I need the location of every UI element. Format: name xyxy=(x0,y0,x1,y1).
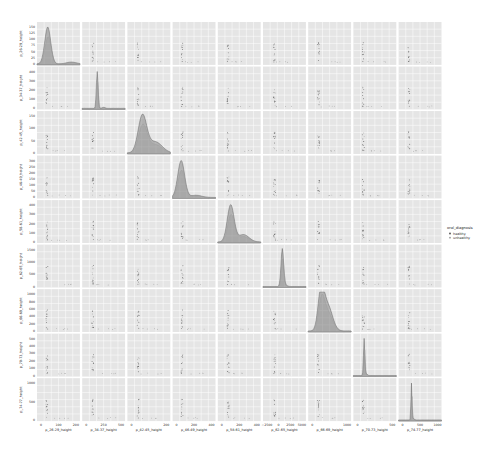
scatter-point xyxy=(369,240,370,241)
scatter-point xyxy=(380,151,381,152)
scatter-point xyxy=(137,55,138,56)
scatter-point xyxy=(227,103,228,104)
scatter-point xyxy=(151,195,152,196)
scatter-point xyxy=(93,268,94,269)
scatter-point xyxy=(319,142,320,143)
scatter-point xyxy=(229,408,230,409)
y-tick-label: 300 xyxy=(29,79,35,83)
scatter-point xyxy=(112,329,113,330)
scatter-point xyxy=(285,61,286,62)
y-tick-label: 400 xyxy=(29,70,35,74)
panel-7-2 xyxy=(127,334,170,377)
scatter-point xyxy=(275,234,276,235)
scatter-point xyxy=(363,98,364,99)
x-axis-label: p_34-37_height xyxy=(91,428,118,432)
y-tick-label: 1000 xyxy=(27,381,35,385)
scatter-point xyxy=(161,240,162,241)
scatter-point xyxy=(240,106,241,107)
scatter-point xyxy=(138,269,139,270)
scatter-point xyxy=(47,145,48,146)
scatter-point xyxy=(137,284,138,285)
scatter-point xyxy=(340,62,341,63)
scatter-point xyxy=(102,151,103,152)
scatter-point xyxy=(274,361,275,362)
scatter-point xyxy=(274,47,275,48)
scatter-point xyxy=(385,62,386,63)
scatter-point xyxy=(362,92,363,93)
scatter-point xyxy=(318,404,319,405)
scatter-point xyxy=(249,418,250,419)
scatter-point xyxy=(318,406,319,407)
scatter-point xyxy=(92,179,93,180)
y-tick-label: 100 xyxy=(29,231,35,235)
scatter-point xyxy=(296,195,297,196)
scatter-point xyxy=(93,54,94,55)
scatter-point xyxy=(334,106,335,107)
y-tick-label: 100 xyxy=(29,183,35,187)
scatter-point xyxy=(422,195,423,196)
scatter-point xyxy=(409,275,410,276)
panel-1-6 xyxy=(308,67,351,110)
scatter-point xyxy=(183,132,184,133)
scatter-point xyxy=(138,411,139,412)
scatter-point xyxy=(138,99,139,100)
scatter-point xyxy=(55,150,56,151)
x-tick-label: 0 xyxy=(221,423,223,427)
scatter-point xyxy=(227,371,228,372)
scatter-point xyxy=(93,327,94,328)
scatter-point xyxy=(181,234,182,235)
x-axis-label: p_42-45_height xyxy=(136,428,163,432)
scatter-point xyxy=(97,284,98,285)
scatter-point xyxy=(319,193,320,194)
scatter-point xyxy=(318,372,319,373)
scatter-point xyxy=(92,139,93,140)
scatter-point xyxy=(328,373,329,374)
scatter-point xyxy=(228,59,229,60)
panel-4-7 xyxy=(353,200,396,243)
y-tick-label: 75 xyxy=(31,43,35,47)
scatter-point xyxy=(137,234,138,235)
scatter-point xyxy=(100,195,101,196)
scatter-point xyxy=(285,418,286,419)
panel-5-2 xyxy=(127,245,170,288)
scatter-point xyxy=(46,273,47,274)
scatter-point xyxy=(182,221,183,222)
scatter-point xyxy=(92,234,93,235)
scatter-point xyxy=(148,239,149,240)
scatter-point xyxy=(408,133,409,134)
scatter-point xyxy=(318,147,319,148)
scatter-point xyxy=(317,97,318,98)
scatter-point xyxy=(274,92,275,93)
scatter-point xyxy=(228,92,229,93)
scatter-point xyxy=(46,182,47,183)
scatter-point xyxy=(362,320,363,321)
y-tick-label: 300 xyxy=(29,159,35,163)
scatter-point xyxy=(318,48,319,49)
scatter-point xyxy=(362,185,363,186)
scatter-point xyxy=(279,61,280,62)
scatter-point xyxy=(377,195,378,196)
scatter-point xyxy=(317,274,318,275)
scatter-point xyxy=(318,365,319,366)
scatter-point xyxy=(47,195,48,196)
scatter-point xyxy=(182,317,183,318)
scatter-point xyxy=(408,270,409,271)
scatter-point xyxy=(137,228,138,229)
scatter-point xyxy=(318,361,319,362)
scatter-point xyxy=(47,329,48,330)
scatter-point xyxy=(46,322,47,323)
scatter-point xyxy=(363,283,364,284)
scatter-point xyxy=(286,373,287,374)
scatter-point xyxy=(362,234,363,235)
scatter-point xyxy=(182,133,183,134)
scatter-point xyxy=(182,283,183,284)
scatter-point xyxy=(228,310,229,311)
scatter-point xyxy=(46,404,47,405)
scatter-point xyxy=(243,329,244,330)
scatter-point xyxy=(318,226,319,227)
scatter-point xyxy=(319,91,320,92)
panel-1-7 xyxy=(353,67,396,110)
scatter-point xyxy=(362,401,363,402)
scatter-point xyxy=(137,188,138,189)
scatter-point xyxy=(67,328,68,329)
